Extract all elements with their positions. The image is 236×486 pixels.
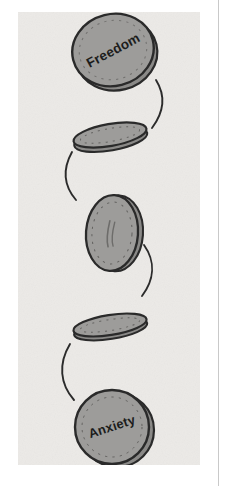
figure-root: Freedom — [0, 0, 236, 486]
coin-flip-illustration: Freedom — [0, 0, 236, 486]
coin-anxiety: Anxiety — [75, 390, 154, 467]
